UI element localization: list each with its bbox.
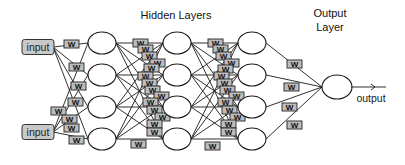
weight-label: W <box>158 92 166 101</box>
neural-network-diagram: WWWWWWWWWWWWWWWWWWWWWWWWWWWWWWWWWWWWWWWW… <box>0 0 405 165</box>
weight-label: W <box>72 98 80 107</box>
hidden-neuron <box>238 64 266 86</box>
hidden-neuron <box>163 64 191 86</box>
hidden-neuron <box>238 128 266 150</box>
weight-box: W <box>71 82 86 91</box>
output-arrow <box>351 84 386 90</box>
hidden-neuron <box>163 128 191 150</box>
output-label: output <box>356 92 385 104</box>
weight-box: W <box>287 60 302 69</box>
weight-label: W <box>135 140 143 149</box>
weight-box: W <box>69 63 84 72</box>
connection-line <box>266 87 322 139</box>
weight-label: W <box>68 40 76 49</box>
output-layer-title-line1: Output <box>313 7 346 19</box>
weight-box: W <box>205 142 220 151</box>
weight-label: W <box>151 128 159 137</box>
weight-label: W <box>73 136 81 145</box>
weight-label: W <box>291 60 299 69</box>
hidden-neuron <box>163 32 191 54</box>
weight-label: W <box>75 82 83 91</box>
weight-label: W <box>68 124 76 133</box>
weight-box: W <box>68 98 83 107</box>
weight-box: W <box>64 124 79 133</box>
connections <box>53 43 322 139</box>
output-layer-title-line2: Layer <box>316 21 344 33</box>
input-label: input <box>27 41 50 53</box>
hidden-layers-title: Hidden Layers <box>141 9 212 21</box>
weight-label: W <box>73 63 81 72</box>
weight-box: W <box>69 136 84 145</box>
weight-label: W <box>209 142 217 151</box>
weight-box: W <box>221 128 236 137</box>
input-node: input <box>22 40 54 55</box>
weight-box: W <box>284 83 299 92</box>
weight-label: W <box>55 107 63 116</box>
input-label: input <box>27 126 50 138</box>
hidden-neuron <box>238 96 266 118</box>
hidden-neuron <box>238 32 266 54</box>
weight-box: W <box>147 128 162 137</box>
weight-box: W <box>131 140 146 149</box>
weight-label: W <box>225 128 233 137</box>
weight-label: W <box>291 121 299 130</box>
input-node: input <box>22 125 54 140</box>
hidden-neuron <box>88 32 116 54</box>
weight-box: W <box>282 103 297 112</box>
weight-box: W <box>62 115 77 124</box>
weight-label: W <box>288 83 296 92</box>
weight-box: W <box>287 121 302 130</box>
hidden-neuron <box>88 128 116 150</box>
hidden-neuron <box>88 96 116 118</box>
input-boxes: inputinput <box>22 40 54 140</box>
weight-box: W <box>64 40 79 49</box>
hidden-neuron <box>163 96 191 118</box>
weight-label: W <box>233 92 241 101</box>
output-neuron <box>322 75 352 99</box>
hidden-neuron <box>88 64 116 86</box>
weight-label: W <box>286 103 294 112</box>
weight-label: W <box>66 115 74 124</box>
